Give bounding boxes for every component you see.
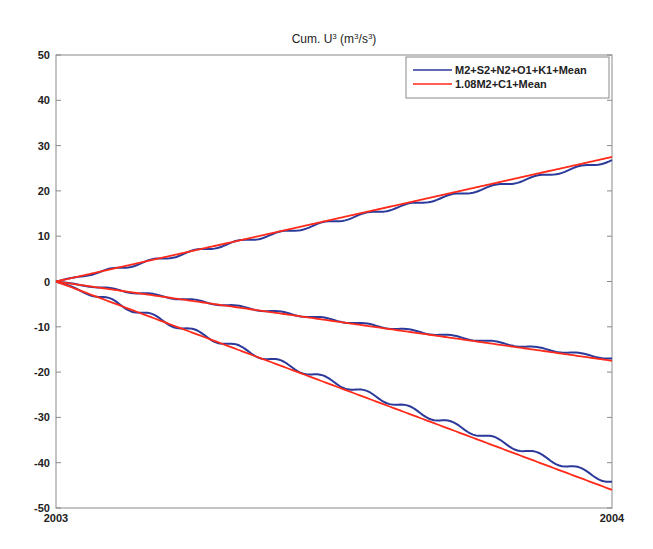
x-tick-label: 2004: [600, 512, 625, 524]
y-tick-label: 50: [38, 49, 50, 61]
y-tick-label: -40: [34, 457, 50, 469]
y-tick-label: 20: [38, 185, 50, 197]
chart-svg: Cum. U3 (m3/s3) 50403020100-10-20-30-40-…: [0, 0, 653, 549]
y-tick-label: -30: [34, 411, 50, 423]
legend: M2+S2+N2+O1+K1+Mean1.08M2+C1+Mean: [406, 57, 609, 98]
chart-title: Cum. U3 (m3/s3): [292, 32, 377, 47]
y-tick-label: -10: [34, 321, 50, 333]
x-tick-label: 2003: [44, 512, 68, 524]
x-axis: 20032004: [44, 512, 625, 524]
legend-label: M2+S2+N2+O1+K1+Mean: [455, 64, 587, 76]
y-tick-label: 0: [44, 276, 50, 288]
chart: Cum. U3 (m3/s3) 50403020100-10-20-30-40-…: [0, 0, 653, 549]
y-tick-label: 30: [38, 140, 50, 152]
y-tick-label: 40: [38, 94, 50, 106]
y-tick-label: -20: [34, 366, 50, 378]
legend-label: 1.08M2+C1+Mean: [455, 78, 547, 90]
y-tick-label: 10: [38, 230, 50, 242]
plot-area: [56, 55, 612, 508]
